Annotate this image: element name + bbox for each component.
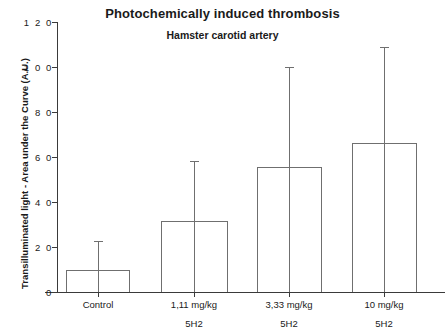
error-bar-line xyxy=(384,47,385,292)
x-tick-label: Control xyxy=(83,299,114,310)
x-tick-sublabel: 5H2 xyxy=(185,318,202,329)
x-axis-line xyxy=(45,292,445,293)
x-tick-mark xyxy=(98,292,99,297)
error-bar-cap xyxy=(285,67,294,68)
error-bar-cap xyxy=(380,47,389,48)
y-tick-label: 2 0 xyxy=(35,242,53,253)
x-tick-mark xyxy=(384,292,385,297)
error-bar-line xyxy=(289,67,290,292)
error-bar-cap xyxy=(94,241,103,242)
x-tick-sublabel: 5H2 xyxy=(375,318,392,329)
y-tick-label: 6 0 xyxy=(35,152,53,163)
x-tick-label: 3,33 mg/kg xyxy=(266,299,313,310)
y-tick-label: 0 xyxy=(46,287,53,298)
y-axis-label: Transilluminated light - Area under the … xyxy=(19,54,30,294)
y-tick-label: 4 0 xyxy=(35,197,53,208)
error-bar-line xyxy=(194,161,195,292)
chart-figure: Photochemically induced thrombosis Hamst… xyxy=(0,0,445,333)
error-bar-line xyxy=(98,241,99,292)
x-tick-label: 10 mg/kg xyxy=(364,299,403,310)
x-tick-mark xyxy=(194,292,195,297)
x-tick-label: 1,11 mg/kg xyxy=(171,299,217,310)
x-tick-sublabel: 5H2 xyxy=(280,318,297,329)
error-bar-cap xyxy=(190,161,199,162)
plot-area: 1 2 01 0 08 06 04 02 00 Transilluminated… xyxy=(0,0,445,333)
y-tick-label: 1 2 0 xyxy=(24,17,53,28)
x-tick-mark xyxy=(289,292,290,297)
y-tick-label: 8 0 xyxy=(35,107,53,118)
